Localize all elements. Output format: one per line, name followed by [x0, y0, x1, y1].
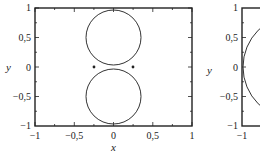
x-tick-label: 0,5 — [147, 130, 160, 141]
y-axis-label: y — [206, 64, 212, 76]
plot-frame — [35, 8, 192, 126]
lower-circle — [86, 69, 141, 124]
y-tick-label: 1 — [26, 2, 31, 13]
x-tick-label: −1 — [237, 130, 248, 141]
upper-circle — [86, 10, 141, 65]
y-tick-label: 0 — [26, 62, 31, 73]
y-ticks — [35, 8, 192, 111]
y-tick-label: 0,5 — [226, 32, 239, 43]
figure: 1 0,5 0 −0,5 −1 y −1 −0,5 0 0,5 1 x 1 0,… — [0, 0, 260, 153]
y-tick-label: 0,5 — [19, 32, 32, 43]
x-tick-label: −0,5 — [65, 130, 83, 141]
y-axis-label: y — [5, 61, 11, 73]
data-point — [93, 66, 96, 69]
left-plot: 1 0,5 0 −0,5 −1 y −1 −0,5 0 0,5 1 x — [5, 2, 195, 153]
y-tick-label: −0,5 — [13, 91, 31, 102]
y-tick-label: 1 — [233, 2, 238, 13]
y-tick-label: −0,5 — [220, 91, 238, 102]
x-ticks — [35, 8, 192, 126]
x-axis-label: x — [110, 141, 116, 153]
x-tick-label: 1 — [190, 130, 195, 141]
x-tick-label: 0 — [111, 130, 116, 141]
data-point — [132, 66, 135, 69]
y-tick-label: 0 — [233, 62, 238, 73]
right-plot: 1 0,5 0 −0,5 −1 y −1 — [206, 2, 260, 141]
x-tick-label: −1 — [30, 130, 41, 141]
